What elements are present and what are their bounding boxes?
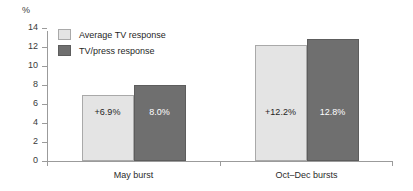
bar-value-label: 8.0% [135,107,185,117]
y-axis-tick: 4 [42,123,47,124]
legend-item: TV/press response [58,43,166,58]
y-axis-tick: 8 [42,85,47,86]
bar-value-label: +6.9% [83,107,133,117]
y-axis-tick-label: 8 [33,78,38,91]
legend-label: Average TV response [79,30,166,40]
y-axis-tick-label: 2 [33,135,38,148]
legend: Average TV responseTV/press response [58,27,166,59]
legend-swatch [58,29,71,40]
x-axis-tick [220,161,221,166]
y-axis-tick-label: 0 [33,154,38,167]
y-axis-tick: 6 [42,104,47,105]
y-axis-tick: 10 [42,66,47,67]
y-axis-unit-label: % [22,5,30,15]
y-axis-tick-label: 14 [28,21,38,34]
y-axis-tick: 14 [42,28,47,29]
bar-value-label: 12.8% [308,107,358,117]
y-axis-tick-label: 12 [28,40,38,53]
y-axis-line [47,31,48,161]
legend-item: Average TV response [58,27,166,42]
bar: +12.2% [255,45,307,161]
y-axis-tick-label: 10 [28,59,38,72]
category-label: May burst [47,170,220,180]
y-axis-tick-label: 4 [33,116,38,129]
bar: 12.8% [307,39,359,161]
bar: +6.9% [82,95,134,161]
y-axis-tick-label: 6 [33,97,38,110]
bar-value-label: +12.2% [256,107,306,117]
y-axis-tick: 2 [42,142,47,143]
legend-label: TV/press response [79,46,155,56]
y-axis-tick: 12 [42,47,47,48]
x-axis-tick [47,161,48,166]
bar-chart: % 14121086420 +6.9%8.0%+12.2%12.8% May b… [0,0,413,191]
category-label: Oct–Dec bursts [220,170,393,180]
legend-swatch [58,45,71,56]
bar: 8.0% [134,85,186,161]
x-axis-tick [392,161,393,166]
